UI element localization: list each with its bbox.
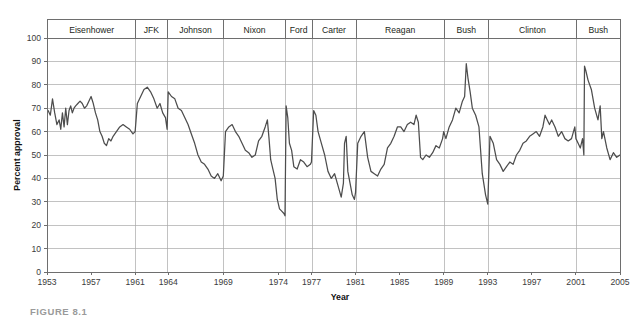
president-band-label: Johnson <box>179 25 212 35</box>
svg-text:1953: 1953 <box>37 277 56 287</box>
svg-text:50: 50 <box>31 150 41 160</box>
y-axis-title: Percent approval <box>12 119 22 190</box>
svg-text:90: 90 <box>31 56 41 66</box>
svg-text:60: 60 <box>31 127 41 137</box>
president-band-label: Clinton <box>519 25 546 35</box>
figure-caption: FIGURE 8.1 <box>30 306 87 317</box>
svg-text:70: 70 <box>31 103 41 113</box>
president-band-label: Bush <box>588 25 608 35</box>
svg-text:2005: 2005 <box>610 277 629 287</box>
svg-text:2001: 2001 <box>566 277 585 287</box>
x-axis-title: Year <box>331 292 350 302</box>
president-band-label: Ford <box>290 25 308 35</box>
svg-text:1989: 1989 <box>434 277 453 287</box>
svg-text:1981: 1981 <box>346 277 365 287</box>
president-band-label: Bush <box>456 25 476 35</box>
svg-text:1985: 1985 <box>390 277 409 287</box>
svg-text:0: 0 <box>36 267 41 277</box>
svg-text:30: 30 <box>31 197 41 207</box>
svg-text:1977: 1977 <box>302 277 321 287</box>
svg-text:100: 100 <box>27 33 42 43</box>
svg-text:40: 40 <box>31 173 41 183</box>
svg-text:1961: 1961 <box>126 277 145 287</box>
president-band-label: Reagan <box>385 25 415 35</box>
svg-text:1957: 1957 <box>82 277 101 287</box>
president-band-label: JFK <box>144 25 160 35</box>
svg-text:20: 20 <box>31 220 41 230</box>
svg-text:1964: 1964 <box>159 277 178 287</box>
svg-text:80: 80 <box>31 80 41 90</box>
figure-container: EisenhowerJFKJohnsonNixonFordCarterReaga… <box>0 0 643 328</box>
svg-text:1969: 1969 <box>214 277 233 287</box>
svg-text:1997: 1997 <box>522 277 541 287</box>
president-band-header: EisenhowerJFKJohnsonNixonFordCarterReaga… <box>47 19 620 38</box>
svg-text:10: 10 <box>31 244 41 254</box>
svg-text:1974: 1974 <box>269 277 288 287</box>
president-band-label: Eisenhower <box>69 25 114 35</box>
approval-line-chart: EisenhowerJFKJohnsonNixonFordCarterReaga… <box>0 0 643 328</box>
president-band-label: Nixon <box>244 25 266 35</box>
president-band-label: Carter <box>322 25 346 35</box>
svg-text:1993: 1993 <box>478 277 497 287</box>
y-axis-ticks: 0102030405060708090100 <box>27 33 47 277</box>
x-axis-ticks: 1953195719611964196919741977198119851989… <box>37 272 629 287</box>
